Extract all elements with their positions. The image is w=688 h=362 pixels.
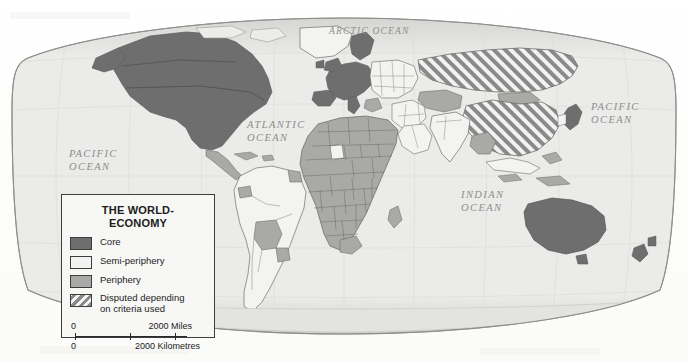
legend-swatch-periphery xyxy=(70,275,92,288)
scale-km-zero: 0 xyxy=(71,341,76,351)
legend-item-disputed: Disputed depending on criteria used xyxy=(70,293,206,314)
legend-title-line1: THE WORLD- xyxy=(102,204,174,216)
legend-item-semi-periphery: Semi-periphery xyxy=(70,255,206,269)
ocean-label-indian: INDIAN OCEAN xyxy=(461,189,504,214)
scale-tick-mid xyxy=(130,333,131,340)
legend-label-periphery: Periphery xyxy=(100,274,141,285)
map-legend: THE WORLD- ECONOMY Core Semi-periphery P… xyxy=(61,194,215,338)
scale-miles-value: 2000 Miles xyxy=(148,321,192,331)
map-canvas: ARCTIC OCEAN ATLANTIC OCEAN PACIFIC OCEA… xyxy=(0,0,688,362)
scale-bars: 0 2000 Miles 0 2000 Kilometres xyxy=(70,321,206,352)
ocean-label-atlantic: ATLANTIC OCEAN xyxy=(247,119,306,144)
region-new-zealand-north-core xyxy=(648,236,656,246)
legend-title-line2: ECONOMY xyxy=(109,217,167,229)
region-paraguay-periphery xyxy=(276,248,290,262)
region-ghana-semi xyxy=(330,144,344,160)
region-ecuador-periphery xyxy=(238,186,252,198)
legend-label-disputed: Disputed depending on criteria used xyxy=(100,293,185,314)
scale-ruler-bar xyxy=(75,336,187,337)
scale-km-labels: 0 2000 Kilometres xyxy=(72,341,206,352)
scale-km-value: 2000 Kilometres xyxy=(135,341,200,351)
legend-item-core: Core xyxy=(70,236,206,250)
legend-label-semi-periphery: Semi-periphery xyxy=(100,255,164,266)
legend-item-periphery: Periphery xyxy=(70,274,206,288)
ocean-label-pacific-left: PACIFIC OCEAN xyxy=(69,148,118,173)
legend-swatch-semi-periphery xyxy=(70,256,92,269)
scale-miles-zero: 0 xyxy=(71,321,76,331)
legend-title: THE WORLD- ECONOMY xyxy=(70,204,206,229)
region-hispaniola xyxy=(262,155,274,161)
ocean-label-pacific-right: PACIFIC OCEAN xyxy=(591,101,640,126)
legend-label-core: Core xyxy=(100,236,121,247)
scale-tick-end xyxy=(175,333,176,340)
scale-ruler xyxy=(75,333,187,340)
scale-tick-0 xyxy=(75,333,76,340)
scale-miles-labels: 0 2000 Miles xyxy=(72,321,206,332)
legend-swatch-core xyxy=(70,237,92,250)
region-guyanas-periphery xyxy=(288,170,302,182)
ocean-label-arctic: ARCTIC OCEAN xyxy=(329,25,410,38)
region-korea-semi xyxy=(558,114,566,126)
legend-swatch-disputed xyxy=(70,294,92,307)
region-tasmania-core xyxy=(576,254,588,264)
